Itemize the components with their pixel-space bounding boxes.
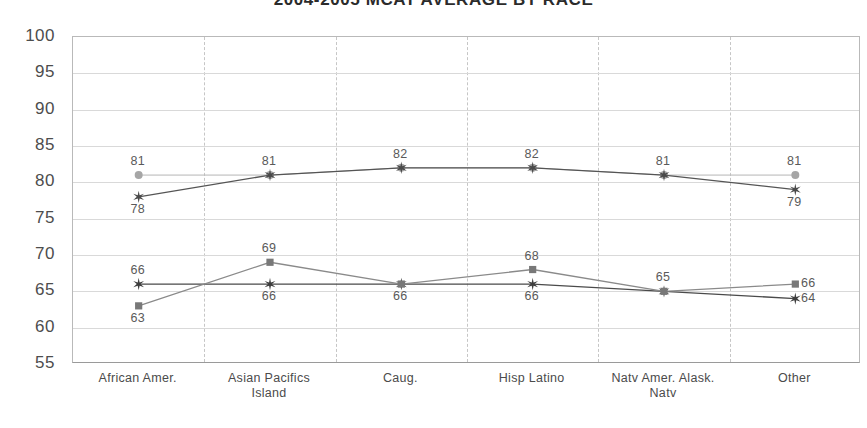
y-axis: 100959085807570656055 [0, 0, 55, 428]
y-axis-tick-label: 95 [3, 62, 55, 82]
y-axis-tick-label: 85 [3, 135, 55, 155]
series-lower-star-series [133, 278, 800, 305]
chart-series-layer [73, 37, 861, 364]
x-axis-tick-label: Natv Amer. Alask.Natv [588, 371, 738, 401]
y-axis-tick-label: 75 [3, 208, 55, 228]
series-line [139, 168, 796, 197]
series-line [139, 284, 796, 299]
y-axis-tick-label: 55 [3, 353, 55, 373]
x-axis-tick-label-line: Natv [588, 386, 738, 401]
x-axis-tick-label: Asian PacificsIsland [194, 371, 344, 401]
series-upper-circle-series [135, 164, 800, 179]
y-axis-tick-label: 90 [3, 99, 55, 119]
data-point-marker [660, 288, 667, 295]
x-axis-tick-label: African Amer. [63, 371, 213, 386]
chart-container: 2004-2005 MCAT AVERAGE BY RACE 100959085… [0, 0, 867, 428]
data-point-marker [791, 171, 799, 179]
y-axis-tick-label: 65 [3, 280, 55, 300]
data-point-marker [135, 302, 142, 309]
series-upper-star-series [133, 162, 800, 203]
x-axis-tick-label: Hisp Latino [457, 371, 607, 386]
plot-area [72, 36, 860, 363]
data-point-marker [135, 171, 143, 179]
data-point-marker [792, 280, 799, 287]
data-point-marker [398, 280, 405, 287]
y-axis-tick-label: 60 [3, 317, 55, 337]
data-point-marker [266, 259, 273, 266]
y-axis-tick-label: 70 [3, 244, 55, 264]
y-axis-tick-label: 100 [3, 26, 55, 46]
x-axis-tick-label: Caug. [325, 371, 475, 386]
x-axis: African Amer.Asian PacificsIslandCaug.Hi… [72, 371, 860, 417]
data-point-marker [529, 266, 536, 273]
x-axis-tick-label-line: Island [194, 386, 344, 401]
x-axis-tick-label: Other [719, 371, 867, 386]
chart-title: 2004-2005 MCAT AVERAGE BY RACE [0, 0, 867, 11]
series-line [139, 168, 796, 175]
y-axis-tick-label: 80 [3, 171, 55, 191]
